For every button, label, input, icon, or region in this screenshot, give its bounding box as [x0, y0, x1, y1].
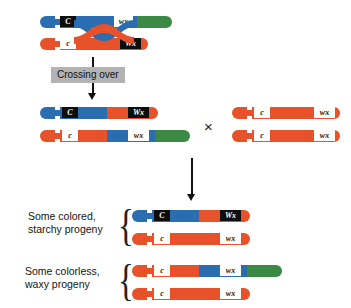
chromosome-tip-green [155, 130, 190, 142]
allele-label-c: c [254, 107, 270, 118]
allele-label-c: c [154, 265, 170, 276]
allele-label-wx: wx [314, 130, 335, 141]
centromere-pinch [55, 128, 60, 133]
progeny-label-line-1: Some colored, [28, 210, 103, 223]
allele-label-C: C [62, 107, 78, 118]
progeny-label-line-2: waxy progeny [25, 278, 100, 291]
allele-label-wx: wx [314, 107, 335, 118]
centromere-pinch [55, 116, 60, 121]
centromere-pinch [147, 286, 152, 291]
centromere-pinch [147, 219, 152, 224]
progeny-arrow-line [191, 158, 193, 196]
progeny-label-colored-starchy: Some colored, starchy progeny [28, 210, 103, 236]
centromere-pinch [147, 297, 152, 302]
progeny-label-line-2: starchy progeny [28, 223, 103, 236]
progeny-2-chromosome-2: c wx [132, 288, 250, 300]
progeny-2-chromosome-1: c wx [132, 265, 282, 277]
progeny-1-chromosome-2: c wx [132, 233, 250, 245]
progeny-label-line-1: Some colorless, [25, 265, 100, 278]
tester-chromosome-1: c wx [232, 107, 340, 119]
allele-label-c: c [154, 233, 170, 244]
progeny-arrow-head [187, 194, 195, 201]
allele-label-wx: wx [220, 288, 241, 299]
centromere-pinch [55, 139, 60, 144]
allele-label-c: c [254, 130, 270, 141]
crossing-over-arrow-head [88, 93, 96, 100]
centromere-pinch [55, 105, 60, 110]
allele-label-c: c [154, 288, 170, 299]
crossing-over-diagram: C wx c Wx Crossing over C Wx c wx × [0, 0, 351, 308]
tester-chromosome-2: c wx [232, 130, 340, 142]
allele-label-wx: wx [128, 130, 149, 141]
centromere-pinch [147, 242, 152, 247]
allele-label-Wx: Wx [128, 107, 149, 118]
recombinant-chromosome-1: C Wx [40, 107, 158, 119]
progeny-1-chromosome-1: C Wx [132, 210, 250, 222]
centromere-pinch [247, 139, 252, 144]
recombinant-chromosome-2: c wx [40, 130, 190, 142]
allele-label-C: C [154, 210, 170, 221]
centromere-pinch [147, 274, 152, 279]
cross-symbol: × [204, 119, 213, 134]
allele-label-c: c [62, 130, 78, 141]
centromere-pinch [147, 263, 152, 268]
allele-label-wx: wx [220, 233, 241, 244]
centromere-pinch [147, 231, 152, 236]
chromosome-tip-green [247, 265, 282, 277]
centromere-pinch [247, 116, 252, 121]
centromere-pinch [147, 208, 152, 213]
chromosome-tip-green [137, 16, 172, 28]
progeny-label-colorless-waxy: Some colorless, waxy progeny [25, 265, 100, 291]
crossing-over-label: Crossing over [51, 67, 125, 83]
allele-label-wx: wx [220, 265, 241, 276]
centromere-pinch [247, 128, 252, 133]
allele-label-Wx: Wx [220, 210, 241, 221]
chiasma-crossover-icon [74, 15, 134, 51]
centromere-pinch [247, 105, 252, 110]
